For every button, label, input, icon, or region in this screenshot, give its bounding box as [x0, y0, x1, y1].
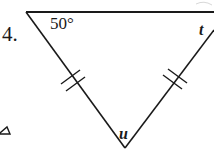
triangle-left-side — [26, 12, 125, 148]
triangle-right-side — [125, 30, 214, 148]
adjacent-figure-fragment — [0, 127, 10, 134]
problem-number: 4. — [2, 24, 18, 45]
triangle-drawing — [0, 0, 214, 157]
angle-label-50-degrees: 50° — [50, 15, 74, 32]
angle-label-u: u — [119, 126, 128, 142]
right-leg-tick-marks — [163, 69, 187, 89]
angle-label-t: t — [199, 22, 203, 38]
scan-smudge — [196, 2, 212, 5]
triangle-figure: 4. 50° t u — [0, 0, 214, 157]
